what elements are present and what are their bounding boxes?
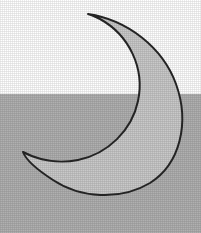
crescent-moon-graphic (0, 0, 201, 233)
crescent-moon-icon (23, 14, 182, 195)
image-canvas (0, 0, 201, 233)
